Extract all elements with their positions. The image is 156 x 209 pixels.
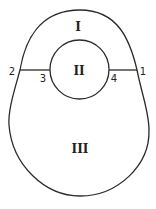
- point-label-3: 3: [40, 73, 46, 84]
- region-label-i: I: [75, 20, 81, 34]
- point-label-2: 2: [9, 66, 15, 77]
- region-label-ii: II: [73, 64, 85, 78]
- point-label-1: 1: [140, 66, 146, 77]
- point-label-4: 4: [111, 73, 117, 84]
- region-diagram: I II III 1 2 3 4: [0, 0, 156, 209]
- outer-boundary: [9, 10, 149, 196]
- region-label-iii: III: [72, 142, 89, 156]
